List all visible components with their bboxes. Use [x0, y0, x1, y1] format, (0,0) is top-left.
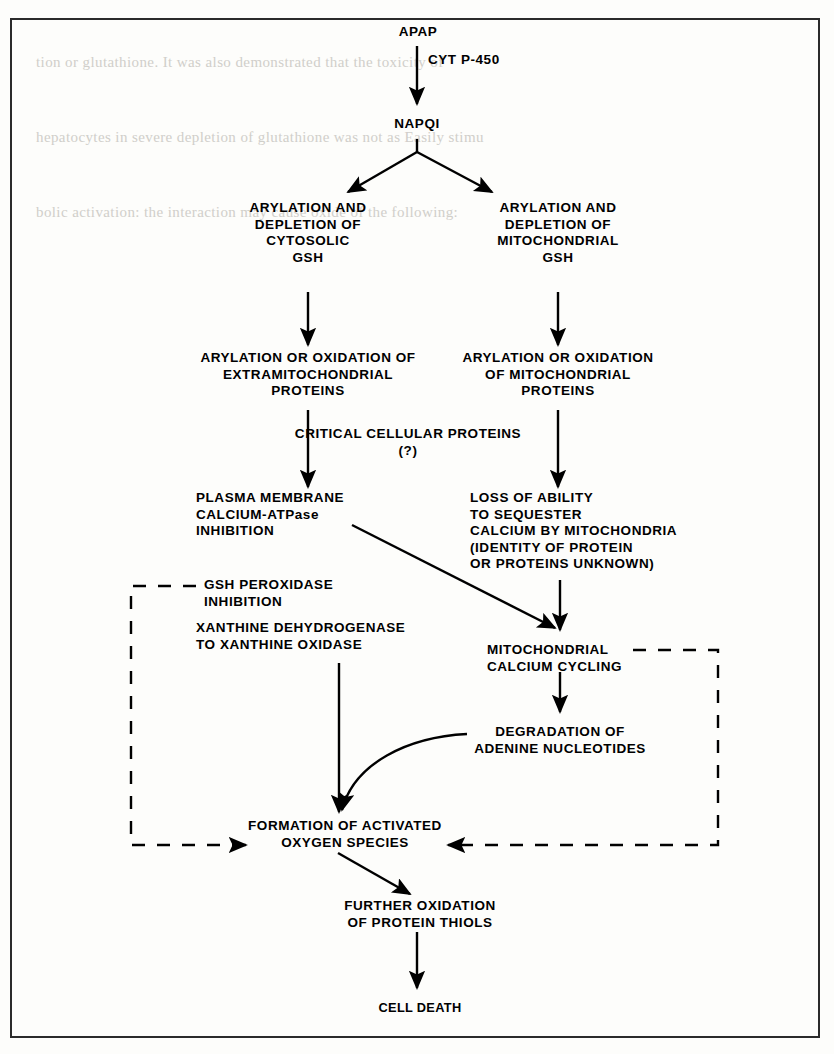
- node-loss-of-ability: LOSS OF ABILITY TO SEQUESTER CALCIUM BY …: [470, 490, 740, 573]
- node-arylation-mitochondrial-gsh: ARYLATION AND DEPLETION OF MITOCHONDRIAL…: [458, 200, 658, 266]
- label-cyt-p450: CYT P-450: [428, 52, 588, 69]
- node-extramitochondrial-proteins: ARYLATION OR OXIDATION OF EXTRAMITOCHOND…: [168, 350, 448, 400]
- edge-napqi-to-cytosolic: [348, 152, 417, 192]
- edge-formation-to-further-oxidation: [338, 853, 410, 894]
- node-cell-death: CELL DEATH: [367, 1000, 473, 1017]
- node-formation-activated-oxygen: FORMATION OF ACTIVATED OXYGEN SPECIES: [237, 818, 453, 851]
- node-arylation-cytosolic-gsh: ARYLATION AND DEPLETION OF CYTOSOLIC GSH: [208, 200, 408, 266]
- figure-page: tion or glutathione. It was also demonst…: [0, 0, 834, 1054]
- node-critical-cellular-proteins: CRITICAL CELLULAR PROTEINS (?): [258, 426, 558, 459]
- edge-napqi-to-mitochondrial: [417, 152, 492, 192]
- node-plasma-membrane-atpase: PLASMA MEMBRANE CALCIUM-ATPase INHIBITIO…: [196, 490, 426, 540]
- node-further-oxidation-protein-thiols: FURTHER OXIDATION OF PROTEIN THIOLS: [330, 898, 510, 931]
- edge-degradation-to-formation-curve: [342, 734, 467, 810]
- node-xanthine-dehydrogenase: XANTHINE DEHYDROGENASE TO XANTHINE OXIDA…: [196, 620, 476, 653]
- node-apap: APAP: [378, 24, 458, 41]
- node-gsh-peroxidase-inhibition: GSH PEROXIDASE INHIBITION: [204, 577, 424, 610]
- node-napqi: NAPQI: [377, 116, 457, 133]
- node-mitochondrial-proteins: ARYLATION OR OXIDATION OF MITOCHONDRIAL …: [428, 350, 688, 400]
- node-degradation-adenine-nucleotides: DEGRADATION OF ADENINE NUCLEOTIDES: [455, 724, 665, 757]
- node-mitochondrial-calcium-cycling: MITOCHONDRIAL CALCIUM CYCLING: [487, 642, 707, 675]
